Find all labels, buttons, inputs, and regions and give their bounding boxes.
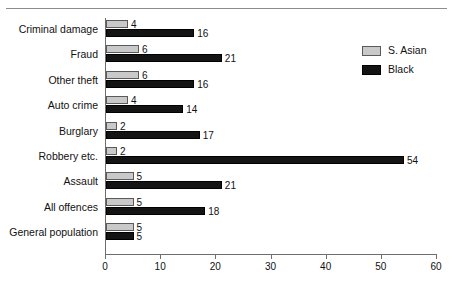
category-label: Auto crime — [48, 99, 98, 112]
x-tick-label-40: 40 — [320, 261, 331, 273]
x-tick-30 — [271, 254, 272, 259]
bar-asian — [106, 198, 134, 206]
bar-value-label: 21 — [225, 180, 236, 191]
bar-asian — [106, 71, 139, 79]
bar-black — [106, 29, 194, 37]
x-tick-label-0: 0 — [102, 261, 108, 273]
bar-black — [106, 80, 194, 88]
bar-asian — [106, 96, 128, 104]
bar-black — [106, 156, 404, 164]
x-tick-label-50: 50 — [375, 261, 386, 273]
bar-black — [106, 131, 200, 139]
legend-swatch-s-asian — [362, 46, 381, 56]
bar-value-label: 54 — [407, 155, 418, 166]
legend-item-s-asian: S. Asian — [362, 44, 448, 58]
bar-value-label: 18 — [208, 206, 219, 217]
bar-group: Robbery etc.254 — [0, 146, 453, 168]
bar-value-label: 16 — [197, 28, 208, 39]
category-label: Fraud — [71, 48, 98, 61]
category-label: Criminal damage — [19, 23, 98, 36]
x-tick-40 — [326, 254, 327, 259]
category-label: General population — [9, 226, 98, 239]
bar-black — [106, 105, 183, 113]
x-tick-10 — [160, 254, 161, 259]
bar-black — [106, 232, 134, 240]
bar-value-label: 16 — [197, 79, 208, 90]
bar-asian — [106, 147, 117, 155]
legend-label-s-asian: S. Asian — [388, 44, 427, 57]
bar-asian — [106, 122, 117, 130]
bar-value-label: 14 — [186, 104, 197, 115]
category-label: All offences — [44, 201, 98, 214]
bar-chart: 0102030405060 Criminal damage416Fraud621… — [0, 0, 453, 291]
category-label: Other theft — [48, 74, 98, 87]
x-tick-20 — [215, 254, 216, 259]
x-tick-0 — [105, 254, 106, 259]
bar-value-label: 21 — [225, 53, 236, 64]
bar-group: All offences518 — [0, 197, 453, 219]
bar-black — [106, 54, 222, 62]
x-tick-label-10: 10 — [155, 261, 166, 273]
bar-group: Assault521 — [0, 171, 453, 193]
category-label: Assault — [64, 175, 98, 188]
bar-group: Criminal damage416 — [0, 19, 453, 41]
bar-black — [106, 207, 205, 215]
bar-value-label: 17 — [203, 130, 214, 141]
bar-group: Auto crime414 — [0, 95, 453, 117]
bar-asian — [106, 223, 134, 231]
x-tick-label-30: 30 — [265, 261, 276, 273]
x-tick-50 — [381, 254, 382, 259]
bar-black — [106, 181, 222, 189]
legend-swatch-black — [362, 65, 381, 75]
category-label: Burglary — [59, 125, 98, 138]
bar-group: Burglary217 — [0, 121, 453, 143]
x-tick-label-60: 60 — [430, 261, 441, 273]
x-tick-label-20: 20 — [210, 261, 221, 273]
bar-asian — [106, 20, 128, 28]
legend-label-black: Black — [388, 63, 414, 76]
x-tick-60 — [436, 254, 437, 259]
chart-legend: S. Asian Black — [362, 44, 448, 82]
bar-asian — [106, 45, 139, 53]
category-label: Robbery etc. — [38, 150, 98, 163]
bar-value-label: 5 — [137, 231, 143, 242]
legend-item-black: Black — [362, 63, 448, 77]
bar-asian — [106, 172, 134, 180]
bar-group: General population55 — [0, 222, 453, 244]
